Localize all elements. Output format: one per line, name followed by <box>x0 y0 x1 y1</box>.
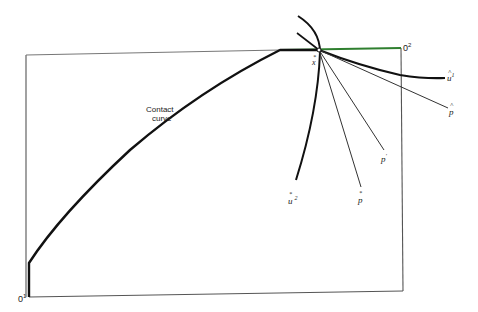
p-prime-label: p′ <box>380 153 388 164</box>
x-star-point <box>317 48 321 52</box>
origin2-label: 02 <box>403 42 412 53</box>
p-star-label: p <box>357 195 363 205</box>
u1-hat-curve <box>319 50 445 78</box>
u1-hat-label: u1 <box>447 72 455 83</box>
p-hat-label: p <box>448 107 454 117</box>
box-frame <box>26 48 403 297</box>
x-star-label: x <box>311 58 316 67</box>
edgeworth-box-diagram: Contact curve 01 02 * x ^ u1 ^ p p′ * p … <box>0 0 478 312</box>
origin1-label: 01 <box>18 293 27 304</box>
contact-curve <box>29 50 319 297</box>
p-star-line <box>319 50 361 187</box>
contact-curve-label-1: Contact <box>146 105 174 114</box>
u2-star-label: u2 <box>288 195 298 206</box>
contact-curve-label-2: curve <box>152 114 172 123</box>
